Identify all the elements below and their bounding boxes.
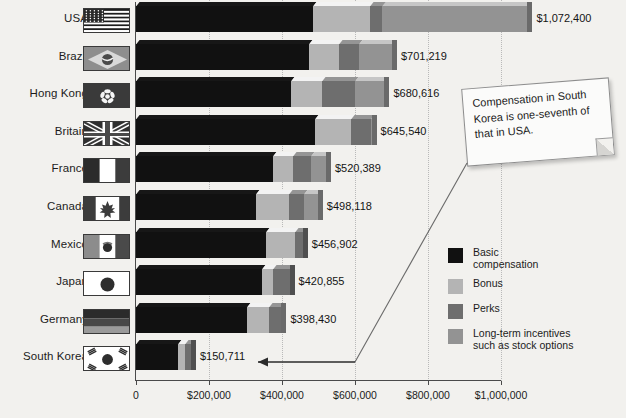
bar-segment: [136, 232, 266, 258]
x-axis-tick: [428, 381, 429, 385]
bar-segment-top: [136, 228, 269, 232]
bar-value-label: $520,389: [335, 162, 381, 174]
callout-note: Compensation in South Korea is one-seven…: [461, 77, 615, 166]
bar-segment: [370, 6, 383, 32]
bar-segment: [293, 156, 311, 182]
bar-segment: [339, 44, 359, 70]
bar-segment: [313, 6, 370, 32]
bar-value-label: $1,072,400: [536, 12, 591, 24]
legend-color-swatch: [448, 304, 463, 319]
bar-value-label: $701,219: [401, 50, 447, 62]
bar-segment: [291, 81, 322, 107]
bar-end-cap: [372, 115, 377, 145]
bar-segment: [309, 44, 338, 70]
legend-item: Basiccompensation: [448, 247, 623, 270]
bar-segment-top: [136, 303, 250, 307]
bar-value-label: $498,118: [327, 200, 372, 212]
bar-segment: [136, 269, 262, 295]
legend-color-swatch: [448, 248, 463, 263]
bar-segment-top: [136, 190, 260, 194]
legend-label-line2: such as stock options: [473, 340, 623, 352]
bar-segment: [269, 307, 281, 333]
legend-item: Long-term incentivessuch as stock option…: [448, 328, 623, 351]
bar-segment: [295, 232, 303, 258]
bar-value-label: $645,540: [381, 125, 427, 137]
bar-segment: [247, 307, 269, 333]
x-axis-tick-label: $200,000: [187, 389, 231, 401]
bar-segment: [266, 232, 295, 258]
x-axis-line: [135, 380, 501, 381]
bar-segment: [136, 307, 247, 333]
bar-segment: [178, 344, 185, 370]
bar-segment-top: [323, 77, 359, 81]
bar-segment: [136, 44, 309, 70]
legend-item: Bonus: [448, 278, 623, 295]
compensation-chart: USA$1,072,400Brazil$701,219Hong Kong$680…: [0, 0, 626, 418]
chart-row: Brazil$701,219: [0, 40, 626, 76]
chart-legend: BasiccompensationBonusPerksLong-term inc…: [448, 247, 623, 359]
bar-segment-top: [383, 2, 531, 6]
bar-segment: [322, 81, 355, 107]
bar-segment-top: [136, 115, 318, 119]
legend-color-swatch: [448, 329, 463, 344]
bar-group: $498,118: [0, 190, 626, 220]
bar-segment: [262, 269, 273, 295]
x-axis-tick: [282, 381, 283, 385]
legend-label: Long-term incentives: [473, 328, 623, 340]
bar-segment: [273, 269, 290, 295]
bar-segment-top: [313, 2, 373, 6]
x-axis-tick: [501, 381, 502, 385]
y-axis-line: [135, 2, 136, 381]
chart-row: Canada$498,118: [0, 190, 626, 226]
bar-segment-top: [266, 228, 298, 232]
bar-segment-top: [136, 152, 276, 156]
x-axis-tick: [209, 381, 210, 385]
bar-segment-top: [310, 40, 342, 44]
bar-segment: [136, 81, 291, 107]
legend-label-line2: compensation: [473, 259, 623, 271]
bar-segment: [136, 344, 178, 370]
x-axis-tick-label: $600,000: [333, 389, 377, 401]
bar-end-cap: [326, 152, 331, 182]
bar-segment: [304, 194, 318, 220]
bar-value-label: $150,711: [200, 350, 245, 362]
callout-fold-corner: [595, 137, 613, 155]
bar-segment-top: [136, 2, 316, 6]
bar-value-label: $456,902: [312, 238, 358, 250]
bar-segment: [355, 81, 384, 107]
bar-end-cap: [392, 40, 397, 70]
legend-label: Basic: [473, 247, 623, 259]
x-axis-tick-label: 0: [133, 389, 139, 401]
bar-group: $1,072,400: [0, 2, 626, 32]
bar-segment-top: [136, 265, 265, 269]
bar-group: $701,219: [0, 40, 626, 70]
bar-segment: [136, 156, 273, 182]
bar-segment: [311, 156, 326, 182]
x-axis-tick: [355, 381, 356, 385]
bar-segment-top: [292, 77, 326, 81]
bar-value-label: $398,430: [290, 313, 336, 325]
legend-label: Bonus: [473, 278, 623, 290]
bar-end-cap: [281, 303, 286, 333]
bar-segment: [315, 119, 352, 145]
bar-segment: [256, 194, 289, 220]
bar-segment: [289, 194, 304, 220]
bar-segment-top: [257, 190, 293, 194]
bar-segment: [273, 156, 293, 182]
bar-segment: [382, 6, 527, 32]
bar-end-cap: [384, 77, 389, 107]
bar-segment-top: [355, 77, 388, 81]
x-axis-tick-label: $800,000: [406, 389, 450, 401]
bar-segment-top: [136, 340, 181, 344]
legend-item: Perks: [448, 303, 623, 320]
bar-end-cap: [303, 228, 308, 258]
callout-text: Compensation in South Korea is one-seven…: [462, 78, 612, 143]
bar-end-cap: [527, 2, 532, 32]
bar-segment-top: [136, 77, 294, 81]
bar-segment: [351, 119, 371, 145]
bar-end-cap: [318, 190, 323, 220]
bar-segment-top: [136, 40, 313, 44]
bar-segment: [136, 6, 313, 32]
bar-segment: [136, 194, 256, 220]
x-axis-tick-label: $400,000: [260, 389, 304, 401]
